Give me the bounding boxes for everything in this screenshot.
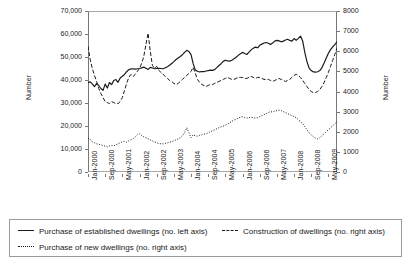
x-tick-mark [88, 174, 89, 177]
legend-item-construction: Construction of dwellings (no. right axi… [222, 223, 385, 239]
chart-area: Number Number 010,00020,00030,00040,0005… [0, 0, 411, 212]
x-tick-label: Sep-2006 [263, 150, 270, 180]
x-tick-label: Sep-2002 [160, 150, 167, 180]
x-tick-mark [311, 174, 312, 177]
left-tick-mark [85, 126, 88, 127]
right-tick-label: 0 [343, 168, 377, 175]
legend-swatch-dotted-icon [18, 243, 34, 251]
x-tick-label: Sep-2004 [211, 150, 218, 180]
right-tick-label: 4000 [343, 88, 377, 95]
legend-item-new-dwellings: Purchase of new dwellings (no. right axi… [18, 239, 187, 255]
legend-item-established: Purchase of established dwellings (no. l… [18, 223, 208, 239]
right-tick-mark [337, 11, 340, 12]
x-tick-mark [328, 174, 329, 177]
right-tick-label: 5000 [343, 67, 377, 74]
right-tick-label: 7000 [343, 27, 377, 34]
right-tick-label: 6000 [343, 47, 377, 54]
x-tick-mark [260, 174, 261, 177]
left-tick-mark [85, 11, 88, 12]
x-tick-mark [105, 174, 106, 177]
plot-series-svg [88, 11, 337, 172]
left-tick-label: 0 [46, 168, 82, 175]
legend-label-established: Purchase of established dwellings (no. l… [39, 227, 208, 236]
left-tick-label: 10,000 [46, 145, 82, 152]
left-tick-mark [85, 149, 88, 150]
x-tick-mark [140, 174, 141, 177]
x-tick-mark [122, 174, 123, 177]
x-tick-mark [243, 174, 244, 177]
right-tick-mark [337, 31, 340, 32]
x-tick-mark [277, 174, 278, 177]
left-tick-mark [85, 34, 88, 35]
legend-swatch-solid-icon [18, 227, 34, 235]
left-tick-mark [85, 57, 88, 58]
left-tick-label: 70,000 [46, 7, 82, 14]
x-tick-label: May-2009 [331, 149, 338, 180]
legend-swatch-dashed-icon [222, 227, 238, 235]
x-tick-label: Sep-2000 [108, 150, 115, 180]
left-tick-label: 40,000 [46, 76, 82, 83]
right-tick-label: 2000 [343, 128, 377, 135]
right-tick-mark [337, 71, 340, 72]
x-axis-ticks: Jan-2000Sep-2000May-2001Jan-2002Sep-2002… [88, 174, 337, 214]
left-tick-mark [85, 103, 88, 104]
chart-screenshot: Number Number 010,00020,00030,00040,0005… [0, 0, 411, 266]
x-tick-label: Jan-2002 [143, 151, 150, 180]
series-line-2 [88, 110, 337, 147]
x-tick-label: May-2007 [280, 149, 287, 180]
x-tick-label: Jan-2008 [297, 151, 304, 180]
right-tick-mark [337, 92, 340, 93]
x-tick-mark [294, 174, 295, 177]
x-tick-mark [225, 174, 226, 177]
right-tick-mark [337, 51, 340, 52]
x-tick-label: Sep-2008 [314, 150, 321, 180]
right-tick-label: 1000 [343, 148, 377, 155]
left-tick-label: 30,000 [46, 99, 82, 106]
left-tick-mark [85, 172, 88, 173]
right-axis-title: Number [382, 58, 389, 118]
right-tick-mark [337, 112, 340, 113]
series-line-1 [88, 33, 337, 103]
series-line-0 [88, 36, 337, 90]
x-tick-label: Jan-2004 [194, 151, 201, 180]
legend-label-construction: Construction of dwellings (no. right axi… [243, 227, 385, 236]
right-tick-mark [337, 132, 340, 133]
x-tick-label: May-2001 [125, 149, 132, 180]
left-tick-label: 60,000 [46, 30, 82, 37]
x-tick-label: May-2003 [177, 149, 184, 180]
left-axis-title: Number [25, 58, 32, 118]
chart-legend: Purchase of established dwellings (no. l… [9, 219, 402, 257]
x-tick-label: Jan-2000 [91, 151, 98, 180]
x-tick-mark [174, 174, 175, 177]
x-tick-mark [208, 174, 209, 177]
right-tick-label: 3000 [343, 108, 377, 115]
left-tick-label: 50,000 [46, 53, 82, 60]
legend-label-new-dwellings: Purchase of new dwellings (no. right axi… [39, 243, 187, 252]
left-tick-label: 20,000 [46, 122, 82, 129]
x-tick-label: Jan-2006 [246, 151, 253, 180]
x-tick-mark [191, 174, 192, 177]
x-tick-mark [157, 174, 158, 177]
x-tick-label: May-2005 [228, 149, 235, 180]
right-tick-label: 8000 [343, 7, 377, 14]
left-tick-mark [85, 80, 88, 81]
